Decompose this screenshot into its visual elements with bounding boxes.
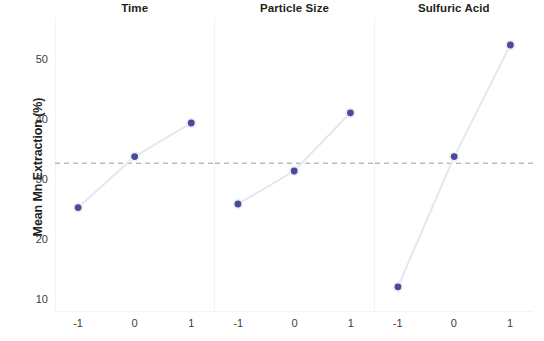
panel-plot-area — [215, 30, 373, 312]
x-axis-tick-label: 1 — [348, 318, 354, 329]
panel-plot-area — [55, 30, 214, 312]
x-axis-tick-label: 1 — [188, 318, 194, 329]
data-point-marker — [235, 201, 242, 208]
x-axis-tick-label: 0 — [451, 318, 457, 329]
panel-time: Time-101 — [55, 18, 214, 312]
data-point-marker — [507, 42, 514, 49]
x-axis-tick-label: -1 — [233, 318, 243, 329]
x-axis-tick-label: 0 — [291, 318, 297, 329]
data-point-marker — [75, 204, 82, 211]
panel-title: Time — [55, 2, 214, 14]
panel-strip: Time-101Particle Size-101Sulfuric Acid-1… — [55, 18, 533, 312]
panel-title: Particle Size — [215, 2, 373, 14]
data-point-marker — [188, 120, 195, 127]
x-axis-tick-label: -1 — [393, 318, 403, 329]
y-axis-tick-labels: 1020304050 — [14, 0, 48, 341]
x-axis-tick-label: 1 — [507, 318, 513, 329]
series-line — [238, 113, 350, 204]
series-line — [398, 45, 510, 287]
y-axis-tick-label: 10 — [20, 294, 48, 305]
y-axis-tick-label: 50 — [20, 54, 48, 65]
x-axis-tick-label: -1 — [73, 318, 83, 329]
panel-particle-size: Particle Size-101 — [214, 18, 373, 312]
panel-plot-area — [375, 30, 533, 312]
data-point-marker — [394, 283, 401, 290]
data-point-marker — [450, 153, 457, 160]
x-axis-tick-labels: -101 — [215, 318, 373, 334]
x-axis-tick-labels: -101 — [55, 318, 214, 334]
data-point-marker — [291, 168, 298, 175]
y-axis-tick-label: 20 — [20, 234, 48, 245]
panel-title: Sulfuric Acid — [375, 2, 533, 14]
y-axis-tick-label: 40 — [20, 114, 48, 125]
x-axis-tick-label: 0 — [132, 318, 138, 329]
main-effects-plot: Mean Mn Extraction (%) 1020304050 Time-1… — [0, 0, 544, 341]
series-line — [78, 123, 191, 208]
data-point-marker — [347, 109, 354, 116]
x-axis-tick-labels: -101 — [375, 318, 533, 334]
y-axis-tick-label: 30 — [20, 174, 48, 185]
panel-sulfuric-acid: Sulfuric Acid-101 — [374, 18, 533, 312]
data-point-marker — [131, 153, 138, 160]
